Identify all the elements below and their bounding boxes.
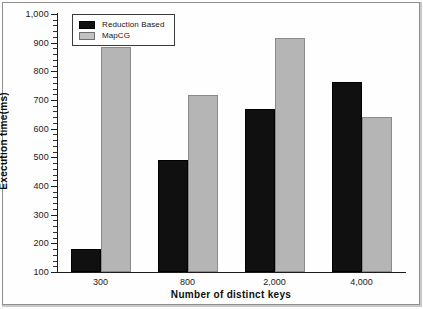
bar-reduction-based-300 bbox=[71, 249, 101, 272]
y-tick-minor bbox=[53, 261, 57, 262]
bar-mapcg-2000 bbox=[275, 38, 305, 272]
plot-area: 1,000900800700600500400300200100 bbox=[57, 14, 405, 272]
y-tick-minor bbox=[53, 94, 57, 95]
y-tick-minor bbox=[53, 48, 57, 49]
legend-swatch-reduction-based bbox=[79, 21, 95, 29]
y-tick-label: 800 bbox=[33, 66, 49, 76]
y-tick-minor bbox=[53, 232, 57, 233]
x-tick-label: 2,000 bbox=[263, 277, 286, 287]
bar-chart-figure: Execution time(ms) Number of distinct ke… bbox=[0, 0, 423, 309]
x-tick-label: 300 bbox=[93, 277, 108, 287]
y-tick-minor bbox=[53, 249, 57, 250]
y-tick-major bbox=[51, 157, 57, 158]
x-axis-title: Number of distinct keys bbox=[57, 289, 405, 300]
legend-item: MapCG bbox=[79, 30, 164, 41]
y-tick-major bbox=[51, 129, 57, 130]
y-tick-minor bbox=[53, 37, 57, 38]
y-tick-label: 100 bbox=[33, 267, 49, 277]
x-tick-label: 800 bbox=[180, 277, 195, 287]
y-tick-minor bbox=[53, 238, 57, 239]
y-tick-label: 900 bbox=[33, 38, 49, 48]
y-tick-minor bbox=[53, 197, 57, 198]
y-tick-minor bbox=[53, 66, 57, 67]
y-tick-major bbox=[51, 272, 57, 273]
y-tick-minor bbox=[53, 203, 57, 204]
y-tick-minor bbox=[53, 266, 57, 267]
y-tick-minor bbox=[53, 146, 57, 147]
chart-legend: Reduction Based MapCG bbox=[72, 14, 175, 46]
y-tick-minor bbox=[53, 111, 57, 112]
y-tick-minor bbox=[53, 226, 57, 227]
bar-reduction-based-2000 bbox=[245, 109, 275, 272]
y-tick-label: 400 bbox=[33, 181, 49, 191]
y-tick-minor bbox=[53, 117, 57, 118]
y-tick-label: 600 bbox=[33, 124, 49, 134]
y-tick-major bbox=[51, 71, 57, 72]
y-tick-minor bbox=[53, 134, 57, 135]
y-tick-minor bbox=[53, 140, 57, 141]
y-tick-label: 200 bbox=[33, 238, 49, 248]
figure-edge-shadow-bottom bbox=[2, 305, 422, 307]
y-tick-minor bbox=[53, 192, 57, 193]
bar-mapcg-4000 bbox=[362, 117, 392, 272]
x-tick-label: 4,000 bbox=[350, 277, 373, 287]
y-tick-major bbox=[51, 215, 57, 216]
y-axis-title: Execution time(ms) bbox=[0, 92, 14, 190]
bar-reduction-based-800 bbox=[158, 160, 188, 272]
bar-mapcg-300 bbox=[101, 47, 131, 272]
y-tick-major bbox=[51, 43, 57, 44]
y-tick-minor bbox=[53, 123, 57, 124]
x-axis-line bbox=[57, 272, 406, 273]
y-tick-minor bbox=[53, 175, 57, 176]
figure-edge-shadow-right bbox=[420, 2, 422, 307]
y-tick-minor bbox=[53, 169, 57, 170]
y-tick-minor bbox=[53, 20, 57, 21]
bar-mapcg-800 bbox=[188, 95, 218, 272]
y-tick-minor bbox=[53, 163, 57, 164]
y-tick-major bbox=[51, 243, 57, 244]
y-tick-minor bbox=[53, 89, 57, 90]
y-tick-major bbox=[51, 100, 57, 101]
y-tick-major bbox=[51, 14, 57, 15]
legend-swatch-mapcg bbox=[79, 32, 95, 40]
y-tick-minor bbox=[53, 83, 57, 84]
y-tick-minor bbox=[53, 180, 57, 181]
y-tick-minor bbox=[53, 60, 57, 61]
y-tick-minor bbox=[53, 31, 57, 32]
bar-reduction-based-4000 bbox=[332, 82, 362, 272]
y-tick-minor bbox=[53, 220, 57, 221]
y-tick-label: 500 bbox=[33, 152, 49, 162]
y-tick-minor bbox=[53, 77, 57, 78]
y-tick-label: 700 bbox=[33, 95, 49, 105]
y-tick-minor bbox=[53, 152, 57, 153]
legend-label-reduction-based: Reduction Based bbox=[102, 20, 164, 29]
legend-item: Reduction Based bbox=[79, 19, 164, 30]
y-tick-label: 1,000 bbox=[25, 9, 49, 19]
y-tick-minor bbox=[53, 209, 57, 210]
y-tick-major bbox=[51, 186, 57, 187]
y-tick-label: 300 bbox=[33, 210, 49, 220]
y-tick-minor bbox=[53, 255, 57, 256]
y-tick-minor bbox=[53, 106, 57, 107]
y-tick-minor bbox=[53, 25, 57, 26]
y-tick-minor bbox=[53, 54, 57, 55]
legend-label-mapcg: MapCG bbox=[102, 31, 130, 40]
